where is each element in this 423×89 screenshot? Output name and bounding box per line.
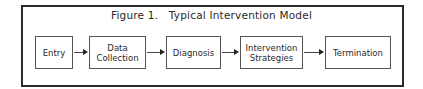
node-label: Diagnosis <box>173 48 214 58</box>
arrow-data-collection-to-diagnosis <box>147 52 165 54</box>
node-diagnosis: Diagnosis <box>166 36 221 69</box>
figure-title: Figure 1. Typical Intervention Model <box>0 9 423 21</box>
arrowhead-icon <box>83 49 88 55</box>
arrowhead-icon <box>319 49 324 55</box>
node-entry: Entry <box>35 36 73 69</box>
node-label: Entry <box>43 48 66 58</box>
node-label: Intervention Strategies <box>246 43 298 63</box>
node-intervention-strategies: Intervention Strategies <box>240 36 303 69</box>
node-data-collection: Data Collection <box>89 36 146 69</box>
arrow-line <box>147 52 161 53</box>
node-label: Data Collection <box>96 43 138 63</box>
node-termination: Termination <box>325 36 391 69</box>
node-label: Termination <box>333 48 383 58</box>
arrow-diagnosis-to-intervention-strategies <box>222 52 239 54</box>
arrowhead-icon <box>234 49 239 55</box>
arrow-entry-to-data-collection <box>74 52 88 54</box>
arrow-intervention-strategies-to-termination <box>304 52 324 54</box>
arrowhead-icon <box>160 49 165 55</box>
arrow-line <box>304 52 320 53</box>
